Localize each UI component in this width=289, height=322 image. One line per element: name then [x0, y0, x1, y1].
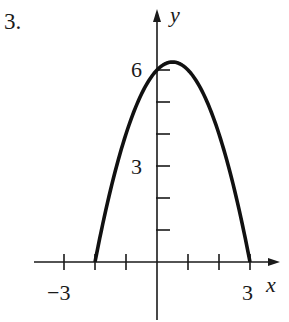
y-tick-label-6: 6 — [131, 59, 142, 81]
x-tick-label-neg3: −3 — [47, 282, 70, 304]
parabola-curve — [95, 62, 250, 262]
y-axis-label: y — [170, 4, 180, 26]
plot-area — [0, 0, 289, 322]
y-tick-label-3: 3 — [131, 156, 142, 178]
x-axis-label: x — [266, 274, 276, 296]
x-axis-arrow-icon — [268, 258, 280, 266]
x-tick-label-3: 3 — [242, 282, 253, 304]
y-axis-arrow-icon — [153, 9, 161, 22]
